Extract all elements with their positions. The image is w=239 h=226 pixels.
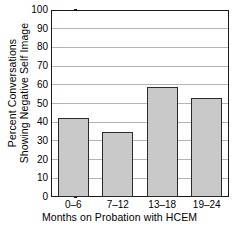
- x-axis-tick-label: 19–24: [177, 199, 237, 210]
- y-axis-tick-label: 70: [28, 61, 48, 71]
- bar: [58, 118, 89, 197]
- y-axis-tick-label: 50: [28, 99, 48, 109]
- y-axis-tick-label: 60: [28, 80, 48, 90]
- bar: [191, 98, 222, 197]
- y-axis-ticks: 0102030405060708090100: [26, 10, 48, 197]
- bar: [102, 132, 133, 197]
- bar: [147, 87, 178, 197]
- y-axis-tick-label: 10: [28, 173, 48, 183]
- y-axis-tick-label: 80: [28, 42, 48, 52]
- bars-layer: [51, 10, 229, 197]
- y-axis-tick-label: 30: [28, 136, 48, 146]
- y-axis-title-line-1: Percent Conversations: [6, 39, 18, 147]
- bar-chart: Percent Conversations Showing Negative S…: [0, 0, 239, 226]
- x-axis-title: Months on Probation with HCEM: [0, 211, 239, 223]
- y-axis-tick-label: 20: [28, 155, 48, 165]
- y-axis-tick-label: 90: [28, 24, 48, 34]
- y-axis-tick-label: 40: [28, 117, 48, 127]
- y-axis-tick-label: 100: [28, 5, 48, 15]
